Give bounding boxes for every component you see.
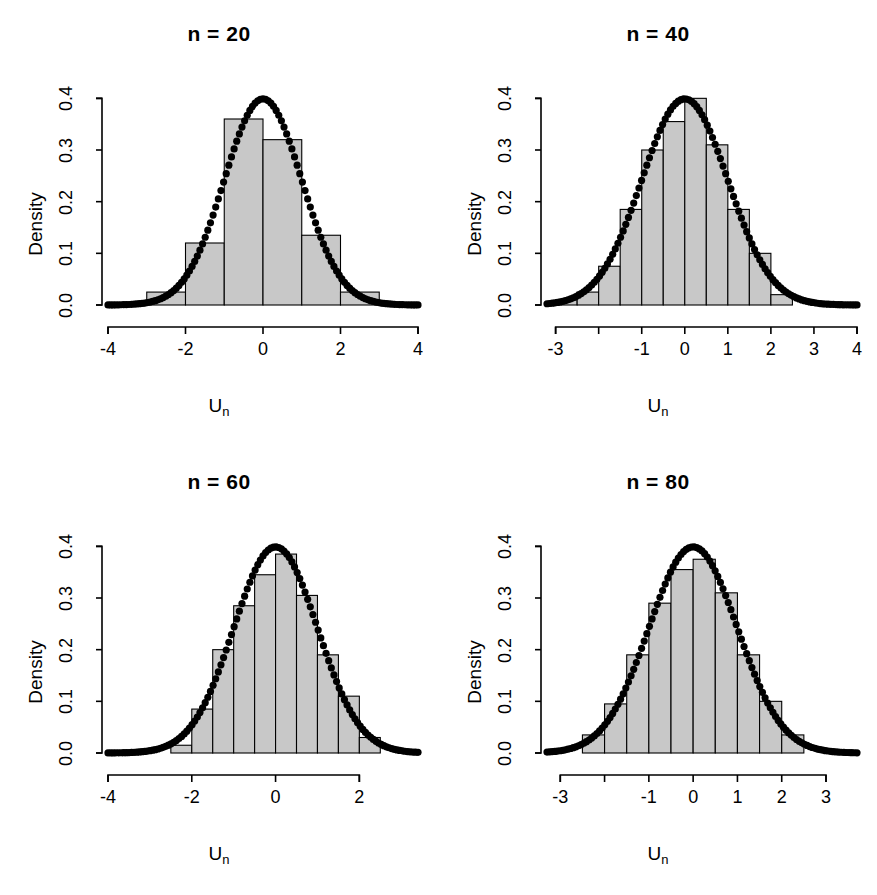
density-point bbox=[853, 301, 860, 308]
density-point bbox=[725, 599, 732, 606]
density-point bbox=[231, 145, 238, 152]
histogram-bars bbox=[171, 554, 380, 753]
density-point bbox=[241, 593, 248, 600]
y-tick-label: 0.2 bbox=[56, 628, 77, 672]
y-tick-label: 0.4 bbox=[56, 77, 77, 121]
density-point bbox=[748, 664, 755, 671]
x-axis bbox=[556, 327, 857, 334]
density-point bbox=[228, 153, 235, 160]
density-point bbox=[735, 628, 742, 635]
x-tick-label: 1 bbox=[715, 787, 759, 808]
y-axis bbox=[535, 98, 541, 305]
y-tick-label: 0.3 bbox=[495, 577, 516, 621]
x-tick-label: -1 bbox=[620, 339, 664, 360]
y-tick-label: 0.0 bbox=[56, 732, 77, 776]
density-point bbox=[220, 654, 227, 661]
y-tick-label: 0.3 bbox=[495, 129, 516, 173]
density-point bbox=[740, 643, 747, 650]
density-point bbox=[746, 657, 753, 664]
density-point bbox=[288, 145, 295, 152]
x-tick-label: 3 bbox=[804, 787, 848, 808]
density-point bbox=[231, 623, 238, 630]
density-point bbox=[638, 177, 645, 184]
y-axis bbox=[96, 98, 102, 305]
density-point bbox=[215, 195, 222, 202]
density-point bbox=[646, 623, 653, 630]
density-point bbox=[643, 162, 650, 169]
y-tick-label: 0.2 bbox=[495, 628, 516, 672]
x-tick-label: 2 bbox=[760, 787, 804, 808]
density-point bbox=[236, 130, 243, 137]
density-point bbox=[299, 179, 306, 186]
density-point bbox=[743, 650, 750, 657]
density-point bbox=[651, 608, 658, 615]
density-point bbox=[246, 579, 253, 586]
density-point bbox=[735, 208, 742, 215]
density-point bbox=[641, 169, 648, 176]
density-point bbox=[320, 642, 327, 649]
histogram-bar bbox=[317, 655, 338, 753]
density-point bbox=[635, 652, 642, 659]
density-point bbox=[414, 749, 421, 756]
density-point bbox=[294, 162, 301, 169]
histogram-bars bbox=[582, 559, 803, 753]
y-tick-label: 0.1 bbox=[56, 680, 77, 724]
density-point bbox=[217, 661, 224, 668]
y-tick-label: 0.4 bbox=[495, 77, 516, 121]
density-point bbox=[196, 247, 203, 254]
density-point bbox=[662, 580, 669, 587]
density-point bbox=[635, 184, 642, 191]
figure-canvas: n = 20DensityUn0.00.10.20.30.4-4-2024n =… bbox=[0, 0, 877, 895]
histogram-bar bbox=[276, 554, 297, 753]
x-tick-label: 3 bbox=[792, 339, 836, 360]
density-point bbox=[238, 123, 245, 130]
x-tick-label: 2 bbox=[749, 339, 793, 360]
density-point bbox=[733, 621, 740, 628]
density-point bbox=[301, 588, 308, 595]
density-point bbox=[317, 234, 324, 241]
density-point bbox=[312, 219, 319, 226]
density-point bbox=[225, 639, 232, 646]
y-tick-label: 0.0 bbox=[495, 284, 516, 328]
density-point bbox=[654, 133, 661, 140]
density-point bbox=[722, 592, 729, 599]
density-point bbox=[315, 627, 322, 634]
x-tick-label: 2 bbox=[337, 787, 381, 808]
density-point bbox=[312, 619, 319, 626]
density-point bbox=[730, 193, 737, 200]
x-tick-label: -4 bbox=[86, 787, 130, 808]
density-point bbox=[291, 153, 298, 160]
density-point bbox=[307, 204, 314, 211]
density-point bbox=[706, 127, 713, 134]
density-point bbox=[212, 204, 219, 211]
density-point bbox=[617, 234, 624, 241]
density-point bbox=[204, 227, 211, 234]
density-point bbox=[238, 600, 245, 607]
histogram-bar bbox=[671, 570, 693, 753]
x-axis bbox=[108, 775, 359, 782]
density-point bbox=[656, 594, 663, 601]
density-point bbox=[630, 666, 637, 673]
density-point bbox=[325, 657, 332, 664]
density-point bbox=[627, 672, 634, 679]
y-axis bbox=[535, 546, 541, 753]
density-point bbox=[743, 228, 750, 235]
x-axis bbox=[560, 775, 826, 782]
density-point bbox=[730, 613, 737, 620]
histogram-bar bbox=[255, 575, 276, 753]
density-point bbox=[225, 162, 232, 169]
density-point bbox=[740, 221, 747, 228]
density-point bbox=[223, 646, 230, 653]
density-point bbox=[625, 679, 632, 686]
density-point bbox=[236, 608, 243, 615]
density-point bbox=[207, 688, 214, 695]
density-point bbox=[717, 579, 724, 586]
density-point bbox=[283, 130, 290, 137]
density-point bbox=[714, 148, 721, 155]
y-tick-label: 0.4 bbox=[495, 525, 516, 569]
y-tick-label: 0.3 bbox=[56, 129, 77, 173]
density-point bbox=[633, 192, 640, 199]
histogram-bars bbox=[556, 98, 793, 305]
density-point bbox=[309, 611, 316, 618]
x-tick-label: -4 bbox=[86, 339, 130, 360]
